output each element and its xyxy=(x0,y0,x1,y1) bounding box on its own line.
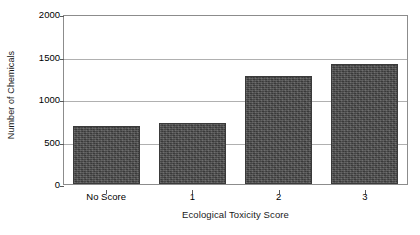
y-axis-tick-label: 1500 xyxy=(20,53,60,63)
x-axis-tick-mark xyxy=(365,190,366,194)
y-axis-tick-label: 1000 xyxy=(20,95,60,105)
bar-slot xyxy=(64,16,150,184)
x-axis-tick-labels: No Score123 xyxy=(63,190,408,204)
y-axis-tick-labels: 0500100015002000 xyxy=(16,0,60,235)
y-axis-tick-label: 0 xyxy=(20,180,60,190)
x-axis-tick-mark xyxy=(106,190,107,194)
bar[interactable] xyxy=(331,64,398,184)
bar[interactable] xyxy=(245,76,312,184)
bar-slot xyxy=(236,16,322,184)
bar[interactable] xyxy=(73,126,140,184)
x-axis-tick-mark xyxy=(279,190,280,194)
y-axis-tick-label: 500 xyxy=(20,138,60,148)
y-axis-tick-mark xyxy=(60,186,64,187)
bar-series xyxy=(64,16,407,184)
bar-chart-figure: Number of Chemicals 0500100015002000 No … xyxy=(0,0,420,235)
plot-area xyxy=(63,15,408,185)
bar[interactable] xyxy=(159,123,226,184)
y-axis-title-text: Number of Chemicals xyxy=(6,51,16,139)
bar-slot xyxy=(150,16,236,184)
x-axis-tick-mark xyxy=(192,190,193,194)
y-axis-tick-label: 2000 xyxy=(20,10,60,20)
bar-slot xyxy=(321,16,407,184)
x-axis-title: Ecological Toxicity Score xyxy=(63,209,408,220)
